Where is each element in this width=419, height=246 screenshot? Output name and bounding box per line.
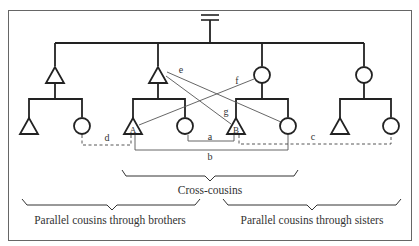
male-node-gen3-1 <box>20 118 38 134</box>
female-node-gen2-4 <box>356 67 372 83</box>
gen2-drop-lines <box>55 43 364 66</box>
ego-label-A: A <box>130 125 137 135</box>
line-g <box>166 76 231 124</box>
label-g: g <box>224 106 229 117</box>
label-parallel-sisters: Parallel cousins through sisters <box>241 214 384 227</box>
male-node-gen2-2 <box>149 67 167 83</box>
kinship-diagram: A B d a b c e f g Cross-cousins Parallel… <box>0 0 419 246</box>
marriage-symbol <box>201 15 219 43</box>
brace-parallel-sisters <box>223 199 401 210</box>
label-a: a <box>208 131 213 142</box>
label-parallel-brothers: Parallel cousins through brothers <box>34 214 186 227</box>
label-c: c <box>311 131 316 142</box>
brace-parallel-brothers <box>22 199 200 210</box>
label-cross-cousins: Cross-cousins <box>178 184 243 196</box>
diagram-frame <box>9 11 412 241</box>
label-e: e <box>179 64 184 75</box>
brace-cross-cousins <box>122 170 298 181</box>
ego-label-B: B <box>233 125 239 135</box>
female-node-gen2-3 <box>254 67 270 83</box>
gen3-sibling-bars <box>29 83 391 118</box>
male-node-gen3-7 <box>331 118 349 134</box>
label-b: b <box>208 151 213 162</box>
female-node-gen3-2 <box>74 118 90 134</box>
female-node-gen3-8 <box>383 118 399 134</box>
label-d: d <box>105 132 110 143</box>
female-node-gen3-4 <box>177 118 193 134</box>
male-node-gen2-1 <box>46 67 64 83</box>
female-node-gen3-6 <box>280 118 296 134</box>
label-f: f <box>235 75 239 86</box>
